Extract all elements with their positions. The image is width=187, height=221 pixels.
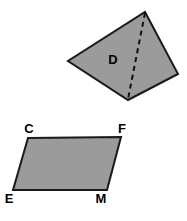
vertex-label-c: C [24, 121, 34, 136]
vertex-label-e: E [5, 191, 14, 206]
geometry-figure-svg: D C F M E [0, 0, 187, 221]
shape-parallelogram-cfme: C F M E [5, 121, 126, 206]
vertex-label-f: F [118, 121, 126, 136]
geometry-figure-canvas: D C F M E [0, 0, 187, 221]
vertex-label-m: M [96, 191, 107, 206]
shape-quadrilateral-d: D [68, 12, 178, 100]
region-label-d: D [108, 52, 117, 67]
parallelogram-cfme-outline [13, 137, 121, 190]
quadrilateral-d-outline [68, 12, 178, 100]
